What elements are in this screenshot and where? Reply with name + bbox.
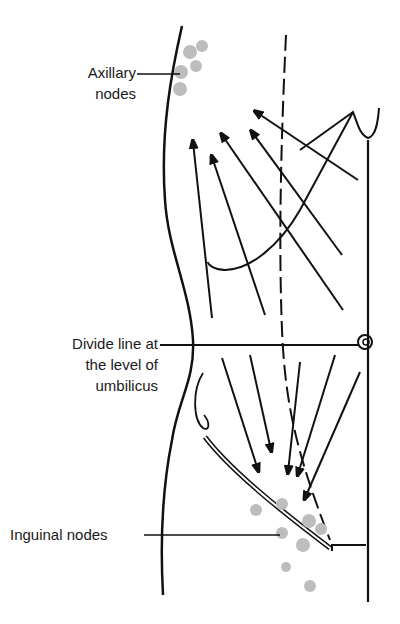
upper-drainage-arrows — [193, 112, 358, 318]
divide-label-line2: the level of — [28, 354, 158, 375]
axillary-label-line2: nodes — [62, 83, 136, 104]
body-outline-left — [162, 26, 193, 595]
divide-line-label: Divide line at the level of umbilicus — [28, 333, 158, 396]
axillary-label-line1: Axillary — [62, 62, 136, 83]
umbilicus-icon — [358, 335, 372, 349]
divide-label-line1: Divide line at — [28, 333, 158, 354]
inguinal-ligament — [205, 437, 330, 548]
inguinal-nodes-label: Inguinal nodes — [10, 524, 108, 545]
dashed-line — [280, 35, 330, 540]
axillary-nodes-label: Axillary nodes — [62, 62, 136, 104]
spermatic-cord-outline — [195, 373, 208, 429]
inguinal-nodes — [250, 498, 327, 592]
divide-label-line3: umbilicus — [28, 375, 158, 396]
